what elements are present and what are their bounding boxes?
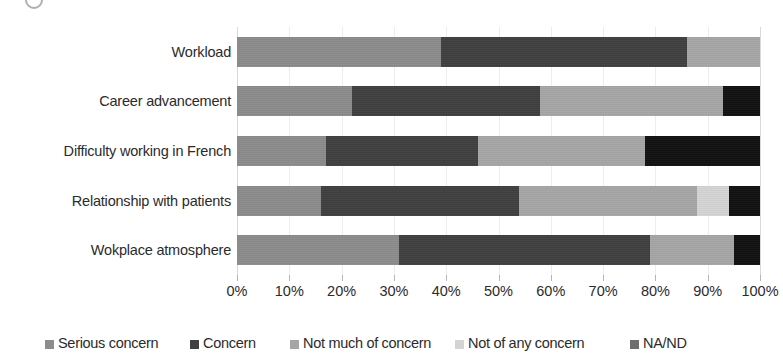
legend-swatch-icon [455, 340, 464, 349]
bar-segment [352, 86, 540, 116]
axis-tick-label: 0% [227, 283, 248, 299]
bar-segment [321, 186, 520, 216]
bar-segment [326, 136, 478, 166]
bar-segment [441, 37, 687, 67]
bar-row [237, 37, 760, 67]
tick-60 [551, 275, 552, 281]
axis-tick-label: 10% [275, 283, 304, 299]
bar-segment [697, 186, 728, 216]
tick-30 [394, 275, 395, 281]
plot-right-border [760, 27, 761, 275]
bar-segment [729, 186, 760, 216]
legend-label: NA/ND [643, 336, 687, 351]
legend-item[interactable]: Not of any concern [455, 336, 584, 351]
cropped-caption-glyph [25, 0, 43, 9]
axis-tick-label: 80% [641, 283, 670, 299]
bar-segment [237, 136, 326, 166]
tick-20 [342, 275, 343, 281]
legend-item[interactable]: Not much of concern [290, 336, 431, 351]
chart-figure: WorkloadCareer advancementDifficulty wor… [0, 0, 783, 354]
bar-segment [237, 186, 321, 216]
value-axis-ticks [237, 275, 760, 281]
tick-70 [603, 275, 604, 281]
category-label: Wokplace atmosphere [0, 243, 231, 258]
legend-item[interactable]: NA/ND [630, 336, 687, 351]
bar-segment [478, 136, 645, 166]
plot-area [237, 27, 760, 275]
legend-label: Not of any concern [468, 336, 584, 351]
legend-swatch-icon [190, 340, 199, 349]
axis-tick-label: 20% [327, 283, 356, 299]
bar-segment [399, 235, 650, 265]
bar-segment [237, 37, 441, 67]
legend-swatch-icon [45, 340, 54, 349]
tick-90 [708, 275, 709, 281]
tick-10 [289, 275, 290, 281]
bar-segment [540, 86, 723, 116]
bar-segment [723, 86, 760, 116]
category-label: Difficulty working in French [0, 144, 231, 159]
legend-item[interactable]: Serious concern [45, 336, 158, 351]
bar-row [237, 86, 760, 116]
bar-segment [650, 235, 734, 265]
tick-40 [446, 275, 447, 281]
bar-row [237, 136, 760, 166]
axis-tick-label: 90% [693, 283, 722, 299]
category-label: Workload [0, 45, 231, 60]
legend-label: Concern [203, 336, 256, 351]
axis-tick-label: 50% [484, 283, 513, 299]
bar-segment [645, 136, 760, 166]
bar-segment [237, 86, 352, 116]
category-axis-labels: WorkloadCareer advancementDifficulty wor… [0, 27, 231, 275]
bar-segment [519, 186, 697, 216]
tick-80 [655, 275, 656, 281]
axis-tick-label: 30% [379, 283, 408, 299]
category-label: Relationship with patients [0, 194, 231, 209]
tick-100 [760, 275, 761, 281]
bar-segment [687, 37, 760, 67]
bar-segment [734, 235, 760, 265]
legend-label: Not much of concern [303, 336, 431, 351]
category-label: Career advancement [0, 94, 231, 109]
bar-segment [237, 235, 399, 265]
tick-50 [499, 275, 500, 281]
axis-tick-label: 100% [741, 283, 778, 299]
bar-row [237, 235, 760, 265]
axis-tick-label: 60% [536, 283, 565, 299]
chart-legend: Serious concernConcernNot much of concer… [0, 336, 783, 354]
bar-row [237, 186, 760, 216]
legend-item[interactable]: Concern [190, 336, 256, 351]
legend-label: Serious concern [58, 336, 158, 351]
axis-tick-label: 70% [589, 283, 618, 299]
legend-swatch-icon [630, 340, 639, 349]
value-axis-labels: 0%10%20%30%40%50%60%70%80%90%100% [0, 283, 783, 303]
tick-0 [237, 275, 238, 281]
legend-swatch-icon [290, 340, 299, 349]
axis-tick-label: 40% [432, 283, 461, 299]
